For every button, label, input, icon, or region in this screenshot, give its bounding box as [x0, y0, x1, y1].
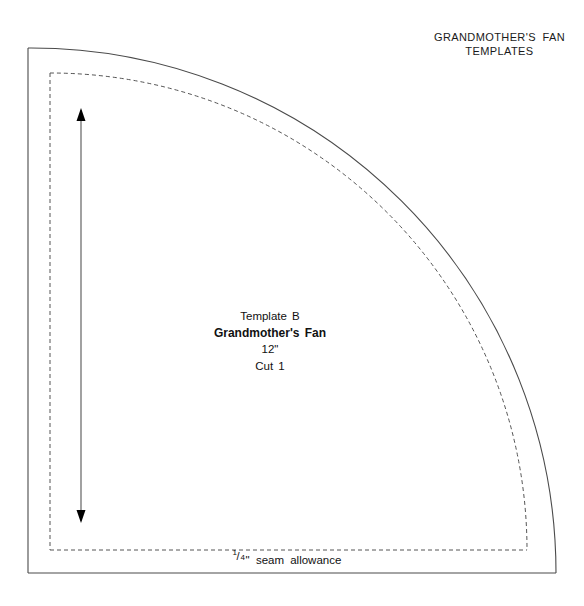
- template-label-cut-count: Cut 1: [0, 358, 540, 375]
- template-label-size: 12": [0, 341, 540, 358]
- pattern-drawing: [0, 0, 584, 606]
- seam-allowance-label: 1 / 4 " seam allowance: [0, 552, 574, 566]
- seam-allowance-unit: ": [246, 554, 250, 566]
- seam-allowance-text: seam allowance: [256, 554, 341, 566]
- dimension-arrow-head-down: [77, 510, 86, 523]
- seam-allowance-fraction: 1 / 4: [233, 552, 246, 564]
- template-label-pattern: Grandmother's Fan: [0, 325, 540, 342]
- dimension-arrow-head-up: [77, 108, 86, 121]
- fraction-slash: /: [237, 550, 240, 562]
- fraction-denominator: 4: [241, 553, 245, 562]
- template-page: GRANDMOTHER'S FAN TEMPLATES Template B G…: [0, 0, 584, 606]
- template-label: Template B Grandmother's Fan 12" Cut 1: [0, 308, 540, 374]
- template-label-name: Template B: [0, 308, 540, 325]
